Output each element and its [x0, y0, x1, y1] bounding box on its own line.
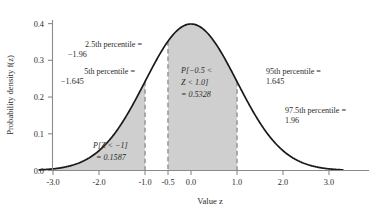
annotation-central-probability-line2: Z < 1.0] — [181, 78, 208, 87]
x-tick-label: -1.0 — [138, 178, 151, 187]
x-tick-label: -0.5 — [161, 178, 174, 187]
chart-canvas: -3.0-2.0-1.0-0.50.01.02.03.0 0.00.10.20.… — [0, 0, 377, 214]
annotation-5-percentile: 5th percentile = −1.645 — [61, 67, 135, 86]
x-tick-label: 0.0 — [186, 178, 196, 187]
annotation-left-tail-probability-line2: = 0.1587 — [96, 153, 127, 162]
x-tick-label: -2.0 — [92, 178, 105, 187]
annotation-central-probability: P[−0.5 < Z < 1.0] = 0.5328 — [180, 66, 212, 99]
normal-distribution-chart: -3.0-2.0-1.0-0.50.01.02.03.0 0.00.10.20.… — [0, 0, 377, 214]
y-tick-label: 0.4 — [34, 20, 45, 29]
y-tick-label: 0.2 — [34, 93, 44, 102]
annotation-central-probability-line1: P[−0.5 < — [180, 66, 212, 75]
x-axis-label: Value z — [197, 196, 223, 206]
x-axis-ticks: -3.0-2.0-1.0-0.50.01.02.03.0 — [46, 171, 334, 187]
x-tick-label: 3.0 — [324, 178, 334, 187]
annotation-2-5-percentile: 2.5th percentile = −1.96 — [68, 40, 142, 59]
annotation-central-probability-line3: = 0.5328 — [181, 90, 211, 99]
left-tail-shaded-area — [39, 82, 145, 171]
annotation-2-5-percentile-line1: 2.5th percentile = — [85, 40, 142, 49]
annotation-95-percentile-line1: 95th percentile = — [266, 67, 321, 76]
annotation-97-5-percentile: 97.5th percentile = 1.96 — [285, 106, 346, 125]
annotation-95-percentile-line2: 1.645 — [266, 77, 284, 86]
annotation-5-percentile-line1: 5th percentile = — [84, 67, 135, 76]
annotation-left-tail-probability-line1: P[Z < −1] — [92, 141, 128, 150]
x-tick-label: 1.0 — [232, 178, 242, 187]
x-tick-label: -3.0 — [46, 178, 59, 187]
y-tick-label: 0.1 — [34, 130, 44, 139]
annotation-5-percentile-line2: −1.645 — [61, 77, 84, 86]
y-axis-ticks: 0.00.10.20.30.4 — [34, 20, 53, 176]
annotation-97-5-percentile-line2: 1.96 — [285, 116, 299, 125]
y-axis-label: Probability density f(z) — [5, 55, 15, 135]
annotation-97-5-percentile-line1: 97.5th percentile = — [285, 106, 346, 115]
y-tick-label: 0.3 — [34, 56, 44, 65]
y-tick-label: 0.0 — [34, 167, 44, 176]
annotation-2-5-percentile-line2: −1.96 — [68, 50, 87, 59]
annotation-95-percentile: 95th percentile = 1.645 — [266, 67, 321, 86]
x-tick-label: 2.0 — [278, 178, 288, 187]
